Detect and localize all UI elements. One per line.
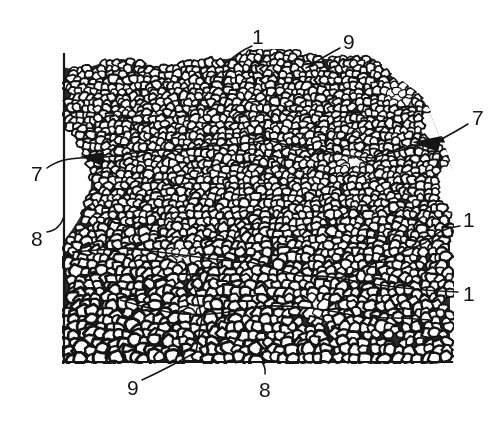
ref-1-right-lower: 1 (463, 283, 475, 304)
ref-9-top: 9 (343, 31, 355, 52)
ref-8-bottom: 8 (259, 379, 271, 400)
ref-7-right: 7 (472, 107, 484, 128)
ref-1-right-upper: 1 (463, 209, 475, 230)
granular-microstructure-image (0, 0, 498, 423)
ref-1-top: 1 (252, 26, 264, 47)
ref-7-left: 7 (31, 163, 43, 184)
patent-figure: 197781198 (0, 0, 498, 423)
ref-8-left: 8 (31, 228, 43, 249)
ref-9-bottom: 9 (127, 377, 139, 398)
